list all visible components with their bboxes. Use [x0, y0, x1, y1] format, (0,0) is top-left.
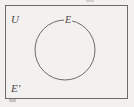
scan-artifact-top-icon: [86, 0, 94, 2]
event-set-label: E: [64, 15, 72, 25]
universal-set-label: U: [11, 14, 19, 25]
complement-set-label: E': [11, 83, 20, 94]
event-set-circle: [35, 20, 95, 80]
venn-diagram-figure: U E E': [0, 0, 134, 107]
scan-artifact-corner-icon: [9, 99, 16, 102]
